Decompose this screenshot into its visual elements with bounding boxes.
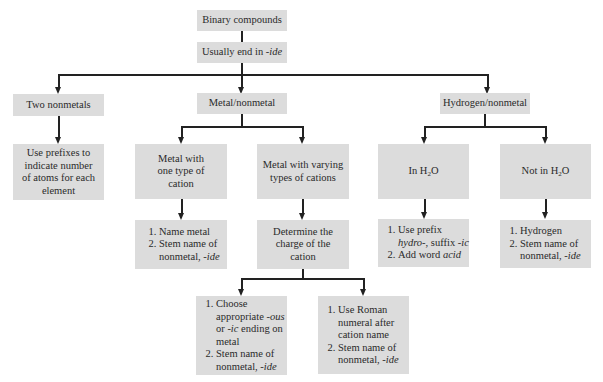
one-type-steps-node: Name metal Stem name of nonmetal, -ide: [135, 220, 227, 269]
node-label: Metal/nonmetal: [209, 97, 275, 110]
step: Add word acid: [398, 249, 469, 262]
connector: [58, 74, 488, 76]
connector: [302, 199, 304, 214]
node-label: Usually end in -ide: [202, 46, 282, 59]
node-label: In H2O: [408, 165, 438, 178]
one-type-cation-node: Metal with one type of cation: [135, 144, 227, 199]
steps-list: Use prefix hydro-, suffix -ic Add word a…: [382, 224, 469, 262]
varying-cation-node: Metal with varying types of cations: [257, 144, 349, 199]
steps-list: Choose appropriate -ous or -ic ending on…: [200, 298, 287, 373]
step: Use Roman numeral after cation name: [338, 304, 409, 342]
in-water-node: In H2O: [378, 144, 469, 199]
roman-numeral-steps-node: Use Roman numeral after cation name Stem…: [318, 296, 409, 374]
node-label: Not in H2O: [522, 165, 570, 178]
connector: [487, 74, 489, 88]
step: Stem name of nonmetal, -ide: [159, 238, 227, 263]
node-label: Two nonmetals: [26, 99, 90, 112]
arrow-icon: [360, 289, 366, 296]
connector: [302, 269, 304, 278]
node-label: Determine the charge of the cation: [269, 226, 337, 264]
two-nonmetals-node: Two nonmetals: [13, 94, 104, 116]
arrow-icon: [238, 289, 244, 296]
node-label: Hydrogen/nonmetal: [443, 97, 527, 110]
metal-nonmetal-node: Metal/nonmetal: [197, 93, 287, 114]
connector: [241, 31, 243, 42]
connector: [241, 114, 243, 126]
step: Stem name of nonmetal, -ide: [216, 348, 287, 373]
node-label: Use prefixes to indicate number of atoms…: [19, 147, 98, 197]
step: Choose appropriate -ous or -ic ending on…: [216, 298, 287, 348]
node-label: Metal with varying types of cations: [261, 159, 345, 184]
in-water-steps-node: Use prefix hydro-, suffix -ic Add word a…: [378, 219, 469, 267]
rule-node: Usually end in -ide: [197, 42, 287, 63]
step: Hydrogen: [520, 225, 591, 238]
connector: [181, 199, 183, 214]
arrow-icon: [542, 137, 548, 144]
arrow-icon: [55, 87, 61, 94]
two-nonmetals-result-node: Use prefixes to indicate number of atoms…: [13, 144, 104, 200]
node-label: Binary compounds: [202, 14, 282, 27]
hydrogen-nonmetal-node: Hydrogen/nonmetal: [440, 93, 530, 114]
not-in-water-node: Not in H2O: [500, 144, 591, 199]
arrow-icon: [421, 137, 427, 144]
steps-list: Name metal Stem name of nonmetal, -ide: [143, 226, 227, 264]
connector: [58, 116, 60, 138]
arrow-icon: [55, 137, 61, 144]
ous-ic-steps-node: Choose appropriate -ous or -ic ending on…: [196, 296, 287, 375]
connector: [545, 199, 547, 213]
steps-list: Hydrogen Stem name of nonmetal, -ide: [504, 225, 591, 263]
not-in-water-steps-node: Hydrogen Stem name of nonmetal, -ide: [500, 220, 591, 268]
determine-charge-node: Determine the charge of the cation: [257, 220, 349, 269]
connector: [58, 74, 60, 88]
connector: [181, 126, 303, 128]
step: Stem name of nonmetal, -ide: [338, 342, 409, 367]
connector: [241, 278, 364, 280]
arrow-icon: [542, 212, 548, 219]
step: Stem name of nonmetal, -ide: [520, 238, 591, 263]
connector: [424, 199, 426, 213]
root-node: Binary compounds: [197, 10, 287, 31]
arrow-icon: [178, 137, 184, 144]
arrow-icon: [178, 213, 184, 220]
connector: [424, 126, 546, 128]
connector: [484, 114, 486, 126]
step: Name metal: [159, 226, 227, 239]
arrow-icon: [299, 137, 305, 144]
steps-list: Use Roman numeral after cation name Stem…: [322, 304, 409, 367]
arrow-icon: [421, 212, 427, 219]
step: Use prefix hydro-, suffix -ic: [398, 224, 469, 249]
node-label: Metal with one type of cation: [151, 153, 211, 191]
arrow-icon: [299, 213, 305, 220]
